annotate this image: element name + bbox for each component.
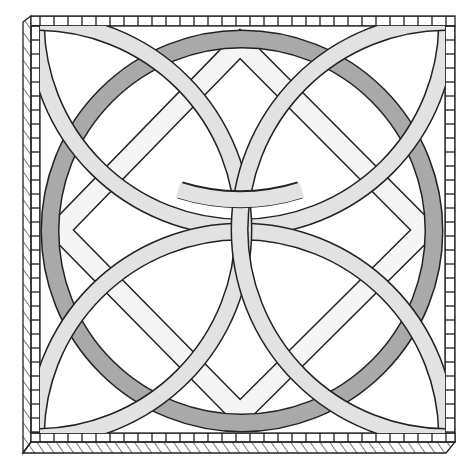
frame-bottom-hatch bbox=[23, 442, 455, 453]
interlaced-arcs bbox=[36, 22, 447, 437]
frame-left-bricks bbox=[31, 26, 40, 433]
frame-left-hatch bbox=[23, 16, 31, 453]
frame-top-bricks bbox=[31, 16, 455, 26]
celtic-knot-artwork bbox=[0, 0, 469, 467]
frame-right-bricks bbox=[445, 26, 455, 442]
frame-bottom-bricks bbox=[31, 433, 455, 442]
